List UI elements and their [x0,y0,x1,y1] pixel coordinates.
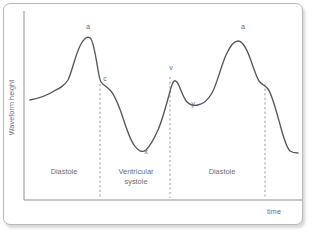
wave-label-v: v [165,63,177,72]
x-axis-label: time [267,207,281,216]
wave-label-a-1: a [82,22,94,31]
wave-label-a-2: a [237,22,249,31]
phase-label-ventricular-systole: Ventricular systole [105,167,167,186]
jvp-waveform-curve [30,37,298,153]
y-axis-label: Waveform height [7,72,16,144]
wave-label-y: y [187,99,199,108]
wave-label-x: x [140,147,152,156]
phase-label-diastole-1: Diastole [32,167,96,177]
jvp-waveform-chart [0,0,312,234]
phase-label-diastole-2: Diastole [186,167,258,177]
figure-canvas: Waveform height time Diastole Ventricula… [0,0,312,234]
wave-label-c: c [99,74,111,83]
